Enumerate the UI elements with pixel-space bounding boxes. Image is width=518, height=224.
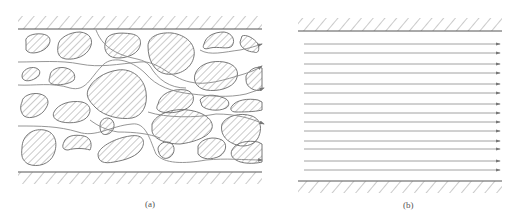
bottom-wall-a <box>18 172 262 184</box>
panel-a-label: (a) <box>145 199 155 209</box>
panel-a <box>18 16 264 184</box>
porous-flow-figure <box>0 0 518 224</box>
top-wall-b <box>298 18 502 31</box>
panel-b-label: (b) <box>403 200 414 210</box>
panel-b <box>298 18 502 193</box>
bottom-wall-b <box>298 181 502 193</box>
top-wall-a <box>18 16 262 29</box>
parallel-streamlines <box>304 44 500 170</box>
